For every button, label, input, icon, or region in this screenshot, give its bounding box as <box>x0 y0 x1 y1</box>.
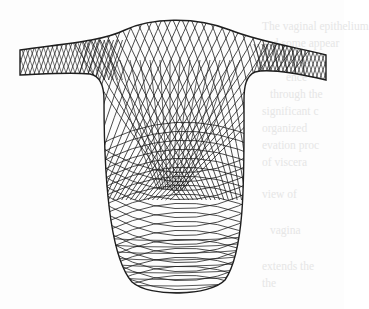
fibre-strand <box>235 14 264 200</box>
fibre-strand <box>100 288 256 293</box>
fibre-strand <box>322 44 336 84</box>
fibre-strand <box>100 236 256 241</box>
fibre-strand <box>290 14 305 200</box>
fibre-strand <box>272 14 290 200</box>
fibre-strand <box>157 14 303 200</box>
fibre-strand <box>90 284 260 309</box>
fibre-strand <box>334 44 344 84</box>
fibre-strand <box>330 44 344 84</box>
fibre-strand <box>100 282 256 287</box>
fibre-strand <box>334 44 344 84</box>
fibre-strand <box>326 44 340 84</box>
fibre-strand <box>326 44 340 84</box>
fibre-strand <box>90 275 260 308</box>
fibre-strand <box>244 14 269 200</box>
fibre-strand <box>100 256 256 261</box>
fibre-strand <box>14 40 28 80</box>
fibre-strand <box>330 44 344 84</box>
helical-fibres <box>14 14 344 309</box>
fibre-strand <box>281 14 297 200</box>
fibre-strand <box>90 266 260 299</box>
fibre-strand <box>90 293 260 309</box>
